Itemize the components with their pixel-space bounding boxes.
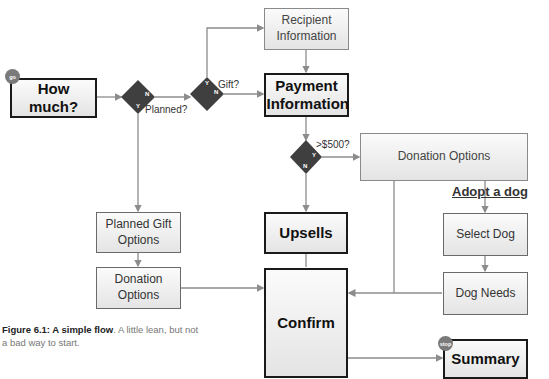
node-planned-gift-options: Planned Gift Options xyxy=(96,212,181,253)
node-select-dog: Select Dog xyxy=(443,213,528,256)
decision-planned-question: Planned? xyxy=(145,104,187,115)
node-upsells-label: Upsells xyxy=(279,224,332,242)
node-donation-options-left: Donation Options xyxy=(96,267,181,309)
node-how-much: How much? xyxy=(10,78,97,118)
decision-over500-question: >$500? xyxy=(316,139,350,150)
node-payment-information-label: Payment Information xyxy=(267,77,347,113)
node-select-dog-label: Select Dog xyxy=(456,227,515,243)
node-summary: Summary xyxy=(443,339,528,379)
node-confirm-label: Confirm xyxy=(277,314,335,332)
node-recipient-information: Recipient Information xyxy=(264,8,349,50)
decision-gift-yes: Y xyxy=(205,80,209,86)
node-summary-label: Summary xyxy=(451,350,519,368)
adopt-a-dog-label: Adopt a dog xyxy=(452,184,528,199)
go-badge: go xyxy=(5,69,20,84)
decision-planned-yes: Y xyxy=(136,103,140,109)
figure-caption: Figure 6.1: A simple flow. A little lean… xyxy=(2,324,202,350)
node-confirm: Confirm xyxy=(264,268,348,378)
decision-over500-no: N xyxy=(303,163,307,169)
node-how-much-label: How much? xyxy=(12,80,95,116)
node-planned-gift-options-label: Planned Gift Options xyxy=(104,217,174,248)
node-payment-information: Payment Information xyxy=(264,73,349,117)
node-donation-options-right: Donation Options xyxy=(360,133,528,181)
node-upsells: Upsells xyxy=(264,212,348,254)
node-donation-options-left-label: Donation Options xyxy=(104,272,174,303)
caption-title: Figure 6.1: A simple flow xyxy=(2,324,113,335)
decision-planned-no: N xyxy=(145,91,149,97)
node-donation-options-right-label: Donation Options xyxy=(398,149,491,165)
node-dog-needs-label: Dog Needs xyxy=(455,286,515,302)
stop-badge: stop xyxy=(438,336,453,351)
node-recipient-information-label: Recipient Information xyxy=(272,13,342,44)
decision-gift-question: Gift? xyxy=(218,79,239,90)
node-dog-needs: Dog Needs xyxy=(443,272,528,315)
decision-over500-yes: Y xyxy=(312,152,316,158)
